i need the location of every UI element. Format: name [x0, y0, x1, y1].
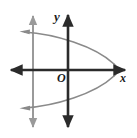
- graph-figure: y O x: [0, 0, 137, 138]
- parabola-lower-arrowhead: [20, 106, 31, 111]
- parabola-upper-arrowhead: [20, 30, 31, 35]
- x-axis-label: x: [120, 72, 126, 84]
- coordinate-plane-svg: [0, 0, 137, 138]
- origin-label: O: [57, 72, 66, 84]
- y-axis-label: y: [54, 10, 60, 23]
